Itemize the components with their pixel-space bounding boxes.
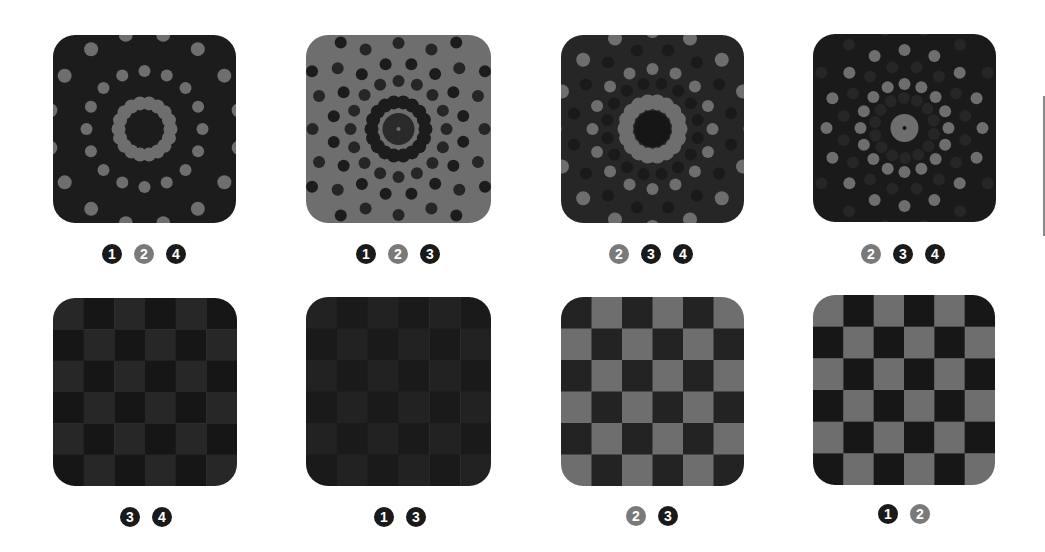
number-badge: 4 xyxy=(152,507,172,527)
number-badge: 3 xyxy=(658,506,678,526)
checkerboard-pattern-tile xyxy=(813,295,995,485)
number-badge: 3 xyxy=(120,507,140,527)
number-badge-group: 23 xyxy=(626,506,678,526)
number-badge-group: 123 xyxy=(356,244,440,264)
number-badge: 2 xyxy=(609,244,629,264)
dot-ring-pattern-tile xyxy=(53,35,236,223)
number-badge: 1 xyxy=(878,504,898,524)
checkerboard-pattern-tile xyxy=(561,297,744,486)
number-badge-group: 124 xyxy=(102,244,186,264)
number-badge-group: 234 xyxy=(609,244,693,264)
number-badge: 4 xyxy=(166,244,186,264)
checkerboard-pattern-tile xyxy=(306,297,491,486)
number-badge: 2 xyxy=(910,504,930,524)
number-badge: 3 xyxy=(641,244,661,264)
dot-ring-pattern-tile xyxy=(813,34,996,222)
number-badge: 3 xyxy=(420,244,440,264)
dot-ring-pattern-tile xyxy=(561,35,744,223)
number-badge: 2 xyxy=(626,506,646,526)
number-badge-group: 13 xyxy=(374,507,426,527)
number-badge-group: 12 xyxy=(878,504,930,524)
number-badge: 1 xyxy=(356,244,376,264)
number-badge: 1 xyxy=(102,244,122,264)
number-badge: 2 xyxy=(388,244,408,264)
number-badge: 2 xyxy=(134,244,154,264)
number-badge-group: 234 xyxy=(861,244,945,264)
number-badge: 1 xyxy=(374,507,394,527)
number-badge: 2 xyxy=(861,244,881,264)
checkerboard-pattern-tile xyxy=(53,298,237,486)
number-badge: 4 xyxy=(673,244,693,264)
number-badge: 3 xyxy=(406,507,426,527)
number-badge-group: 34 xyxy=(120,507,172,527)
dot-ring-pattern-tile xyxy=(306,35,491,223)
number-badge: 3 xyxy=(893,244,913,264)
number-badge: 4 xyxy=(925,244,945,264)
